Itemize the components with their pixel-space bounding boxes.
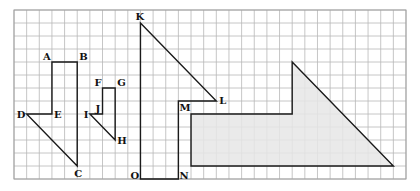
vertex-label-g: G (117, 77, 126, 88)
vertex-label-e: E (54, 109, 62, 120)
vertex-label-f: F (95, 77, 102, 88)
vertex-label-c: C (74, 168, 82, 179)
vertex-label-b: B (79, 51, 87, 62)
vertex-label-a: A (42, 51, 51, 62)
vertex-label-d: D (17, 109, 26, 120)
vertex-label-m: M (179, 102, 190, 113)
vertex-label-o: O (130, 170, 139, 181)
vertex-label-k: K (135, 11, 144, 22)
vertex-label-l: L (219, 95, 226, 106)
vertex-label-j: J (95, 103, 101, 114)
vertex-label-n: N (179, 170, 188, 181)
vertex-label-i: I (84, 109, 89, 120)
geometry-grid-diagram: ABCDEFGHIJKLMNO (0, 0, 420, 191)
vertex-label-h: H (117, 135, 126, 146)
